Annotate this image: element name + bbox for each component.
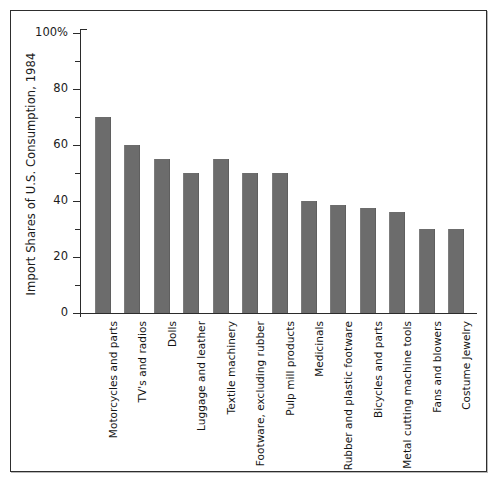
y-tick-major: 40 [73,201,81,202]
x-axis-tick-label: Bicycles and parts [372,321,384,418]
y-tick-minor [75,61,81,62]
bar [419,229,435,313]
bar [272,173,288,313]
y-tick-major: 100% [73,33,81,34]
x-axis-tick-label: Rubber and plastic footware [342,321,354,470]
y-tick-major: 20 [73,257,81,258]
x-axis-tick-label: Motorcycles and parts [107,321,119,438]
y-tick-minor [75,117,81,118]
y-axis-cap [80,29,87,30]
plot-area: 020406080100% Motorcycles and partsTV's … [80,33,477,313]
y-axis-title: Import Shares of U.S. Consumption, 1984 [22,33,40,315]
y-tick-label: 20 [53,249,68,263]
x-axis-tick-label: Luggage and leather [195,321,207,431]
y-tick-label: 0 [61,305,68,319]
y-tick-label: 100% [35,25,68,39]
x-axis-tick-label: Metal cutting machine tools [401,321,413,469]
bar [124,145,140,313]
y-tick-minor [75,173,81,174]
bar [95,117,111,313]
y-tick-major: 0 [73,313,81,314]
y-tick-label: 80 [53,81,68,95]
x-axis-line [80,313,477,314]
bar [389,212,405,313]
bar [242,173,258,313]
bar [213,159,229,313]
x-axis-tick-label: Pulp mill products [284,321,296,416]
x-axis-tick-label: Footware, excluding rubber [254,321,266,466]
y-tick-label: 40 [53,193,68,207]
x-axis-tick-label: Fans and blowers [431,321,443,413]
x-axis-tick-label: Textile machinery [225,321,237,414]
bar [360,208,376,313]
bar [183,173,199,313]
y-tick-major: 80 [73,89,81,90]
y-tick-major: 60 [73,145,81,146]
x-axis-tick-label: Costume Jewelry [460,321,472,410]
x-axis-tick-label: Medicinals [313,321,325,377]
bar [154,159,170,313]
bar [448,229,464,313]
bar [330,205,346,313]
y-tick-label: 60 [53,137,68,151]
y-tick-minor [75,229,81,230]
x-axis-tick-label: Dolls [166,321,178,347]
chart-figure: Import Shares of U.S. Consumption, 1984 … [0,0,499,485]
bar [301,201,317,313]
y-tick-minor [75,285,81,286]
x-axis-tick-label: TV's and radios [136,321,148,402]
